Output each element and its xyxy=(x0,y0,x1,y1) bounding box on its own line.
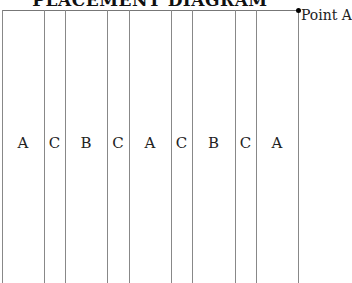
column-label-c: C xyxy=(107,134,129,152)
column-label-c: C xyxy=(235,134,256,152)
diagram-title: PLACEMENT DIAGRAM xyxy=(0,0,300,10)
column-label-a: A xyxy=(256,134,298,152)
column-label-a: A xyxy=(129,134,171,152)
top-border-line xyxy=(2,10,299,11)
column-label-b: B xyxy=(65,134,107,152)
column-label-b: B xyxy=(192,134,235,152)
column-label-c: C xyxy=(171,134,192,152)
column-label-a: A xyxy=(2,134,44,152)
point-a-label: Point A xyxy=(301,7,352,23)
column-divider xyxy=(298,10,299,283)
column-label-c: C xyxy=(44,134,65,152)
